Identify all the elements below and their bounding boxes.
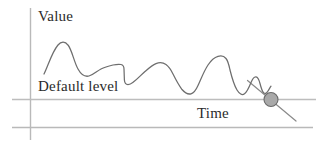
value-time-decay-figure: Value Default level Time	[0, 0, 328, 145]
crossing-point-marker	[264, 93, 278, 107]
default-level-label: Default level	[38, 79, 118, 94]
y-axis-label: Value	[38, 9, 73, 24]
x-axis-label: Time	[197, 106, 229, 121]
